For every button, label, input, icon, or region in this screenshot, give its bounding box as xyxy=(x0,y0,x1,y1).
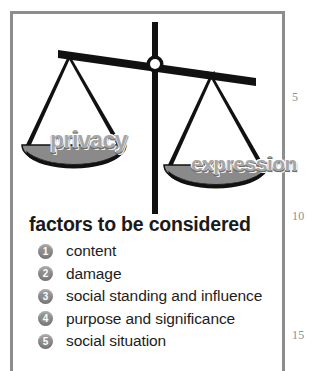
list-number-badge: 5 xyxy=(38,334,53,349)
list-number-badge: 2 xyxy=(38,266,53,281)
list-item: 1 content xyxy=(38,240,283,263)
list-item: 4 purpose and significance xyxy=(38,308,283,331)
balance-scale-icon xyxy=(14,14,282,214)
scale-post xyxy=(152,22,158,214)
list-item-label: damage xyxy=(66,265,121,283)
list-item-label: social situation xyxy=(66,332,166,350)
right-pan-label: expression xyxy=(191,152,297,176)
list-item-label: purpose and significance xyxy=(66,310,235,328)
left-pan-label: privacy xyxy=(50,127,127,154)
line-number-15: 15 xyxy=(292,328,314,343)
list-item: 2 damage xyxy=(38,263,283,286)
list-item: 5 social situation xyxy=(38,330,283,353)
list-item-label: social standing and influence xyxy=(66,287,262,305)
list-number-badge: 3 xyxy=(38,289,53,304)
list-item: 3 social standing and influence xyxy=(38,285,283,308)
fulcrum-pivot-hole xyxy=(150,59,160,69)
page-title: factors to be considered xyxy=(29,213,251,236)
list-number-badge: 4 xyxy=(38,311,53,326)
line-number-5: 5 xyxy=(292,90,314,105)
balance-scale-figure: privacy expression xyxy=(14,14,282,214)
line-number-10: 10 xyxy=(292,209,314,224)
factors-list: 1 content 2 damage 3 social standing and… xyxy=(38,240,283,353)
list-item-label: content xyxy=(66,242,116,260)
list-number-badge: 1 xyxy=(38,244,53,259)
